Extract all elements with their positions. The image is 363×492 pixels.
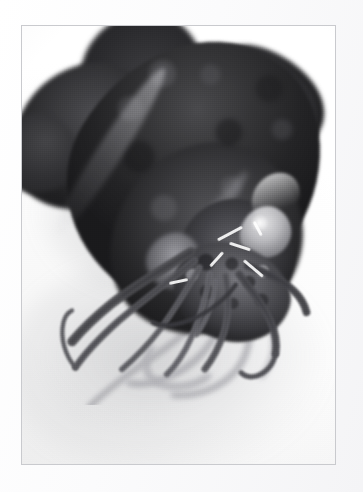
tentacle [239,274,276,353]
photo-frame [21,25,336,465]
arms-and-tentacles [22,26,335,405]
tentacle [72,252,191,342]
tentacle [241,354,275,377]
photograph [22,26,335,464]
image-page [0,0,363,492]
